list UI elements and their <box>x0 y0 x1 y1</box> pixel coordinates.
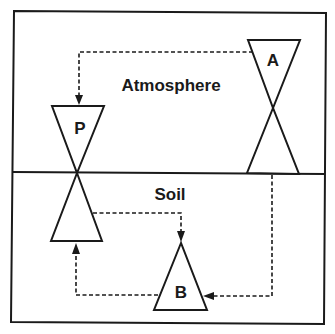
flow-b-to-p <box>72 243 158 295</box>
flow-p-to-b <box>93 213 185 242</box>
arrowhead <box>75 95 83 105</box>
pool-a-label: A <box>267 51 279 70</box>
pool-b-label: B <box>175 283 187 302</box>
carbon-pool-diagram: P A B Atmosphere Soil <box>0 0 335 334</box>
soil-label: Soil <box>154 185 185 204</box>
arrowhead <box>72 243 80 254</box>
pool-a-lower-triangle <box>247 108 299 174</box>
atmosphere-label: Atmosphere <box>121 76 220 95</box>
arrowhead <box>203 292 214 300</box>
pool-p-label: P <box>74 119 85 138</box>
pool-b: B <box>154 243 207 310</box>
pool-p-upper-triangle <box>52 106 104 173</box>
flow-a-to-b <box>203 175 272 300</box>
pool-p-lower-triangle <box>51 173 102 241</box>
pool-a: A <box>247 40 300 174</box>
